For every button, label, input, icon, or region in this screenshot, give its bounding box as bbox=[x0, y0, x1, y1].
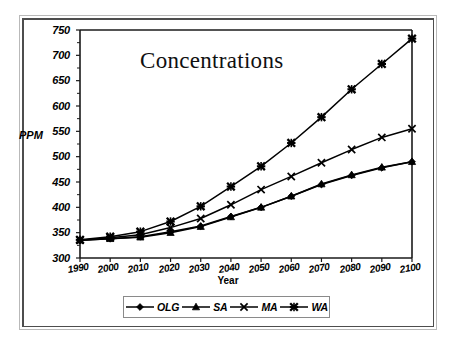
y-axis-tick-label: 400 bbox=[36, 202, 70, 213]
y-axis-tick-label: 700 bbox=[36, 50, 70, 61]
legend-item-label: MA bbox=[261, 301, 277, 313]
y-axis-tick-label: 450 bbox=[36, 177, 70, 188]
star-marker-icon bbox=[279, 301, 309, 313]
y-axis-tick-label: 650 bbox=[36, 75, 70, 86]
legend-item-olg: OLG bbox=[124, 301, 180, 313]
legend-item-label: SA bbox=[213, 301, 227, 313]
legend-item-sa: SA bbox=[180, 301, 228, 313]
legend-item-label: OLG bbox=[157, 301, 179, 313]
y-axis-tick-label: 550 bbox=[36, 126, 70, 137]
y-axis-tick-label: 600 bbox=[36, 101, 70, 112]
y-axis-tick-label: 750 bbox=[36, 25, 70, 36]
chart-legend: OLGSAMAWA bbox=[123, 296, 330, 318]
diamond-marker-icon bbox=[125, 301, 155, 313]
y-axis-tick-label: 300 bbox=[36, 253, 70, 264]
legend-item-label: WA bbox=[311, 301, 328, 313]
x-marker-icon bbox=[229, 301, 259, 313]
y-axis-tick-label: 500 bbox=[36, 151, 70, 162]
chart-title: Concentrations bbox=[140, 48, 283, 74]
triangle-marker-icon bbox=[181, 301, 211, 313]
legend-item-wa: WA bbox=[278, 301, 329, 313]
legend-item-ma: MA bbox=[228, 301, 278, 313]
x-axis-title: Year bbox=[0, 275, 456, 286]
y-axis-tick-label: 350 bbox=[36, 227, 70, 238]
